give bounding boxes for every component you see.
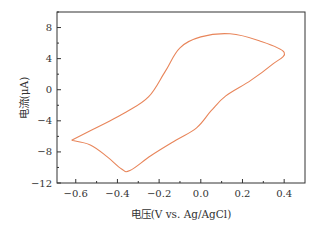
y-tick-label: 8 — [46, 22, 52, 33]
y-axis-ticks: −12−8−4048 — [31, 12, 61, 189]
y-tick-label: 4 — [46, 53, 52, 64]
cv-chart: −0.6−0.4−0.20.00.20.4 −12−8−4048 电压(V vs… — [0, 0, 320, 232]
cv-curve — [72, 34, 285, 172]
y-tick-label: −4 — [37, 115, 52, 126]
y-axis-label: 电流(μA) — [18, 77, 30, 120]
y-tick-label: 0 — [46, 84, 52, 95]
x-axis-label: 电压(V vs. Ag/AgCl) — [131, 208, 232, 220]
x-tick-label: 0.4 — [276, 188, 292, 199]
x-tick-label: −0.6 — [64, 188, 88, 199]
x-axis-ticks: −0.6−0.4−0.20.00.20.4 — [64, 179, 293, 199]
x-tick-label: 0.0 — [193, 188, 209, 199]
x-tick-label: −0.4 — [105, 188, 129, 199]
y-tick-label: −8 — [37, 146, 52, 157]
y-tick-label: −12 — [31, 178, 52, 189]
x-tick-label: −0.2 — [147, 188, 171, 199]
plot-frame — [57, 12, 305, 183]
x-tick-label: 0.2 — [235, 188, 251, 199]
